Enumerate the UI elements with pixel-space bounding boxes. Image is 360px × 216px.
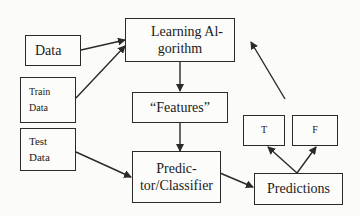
edge-feedback-to-learning bbox=[251, 42, 285, 99]
node-train-data-line1: Train bbox=[29, 86, 50, 99]
node-learning-line2: gorithm bbox=[158, 40, 202, 58]
edge-data-to-learning bbox=[81, 40, 125, 50]
edge-predictions-to-t bbox=[268, 147, 297, 173]
node-learning-line1: Learning Al- bbox=[137, 23, 223, 41]
node-predictor-classifier: Predic- tor/Classifier bbox=[132, 151, 221, 203]
node-true-label: T bbox=[261, 124, 267, 137]
node-test-data-line2: Data bbox=[29, 151, 50, 165]
node-train-data-line2: Data bbox=[29, 102, 48, 115]
node-true: T bbox=[243, 115, 285, 146]
edge-predictions-to-f bbox=[297, 147, 316, 173]
node-predictor-line2: tor/Classifier bbox=[140, 177, 213, 195]
node-train-data: Train Data bbox=[20, 77, 76, 123]
node-predictions-label: Predictions bbox=[267, 180, 330, 198]
node-features-label: “Features” bbox=[150, 99, 210, 117]
node-false-label: F bbox=[312, 124, 318, 137]
node-learning-algorithm: Learning Al- gorithm bbox=[125, 18, 235, 62]
node-predictor-line1: Predic- bbox=[156, 160, 196, 178]
edge-predictor-to-predictions bbox=[220, 173, 253, 187]
node-predictions: Predictions bbox=[254, 173, 343, 205]
node-false: F bbox=[292, 115, 338, 146]
node-features: “Features” bbox=[132, 92, 228, 123]
edge-train-to-learning bbox=[76, 46, 125, 98]
node-test-data: Test Data bbox=[20, 128, 76, 171]
node-data-label: Data bbox=[35, 42, 61, 60]
node-test-data-line1: Test bbox=[29, 135, 47, 149]
node-data: Data bbox=[25, 35, 81, 66]
edge-test-to-predictor bbox=[76, 152, 131, 177]
